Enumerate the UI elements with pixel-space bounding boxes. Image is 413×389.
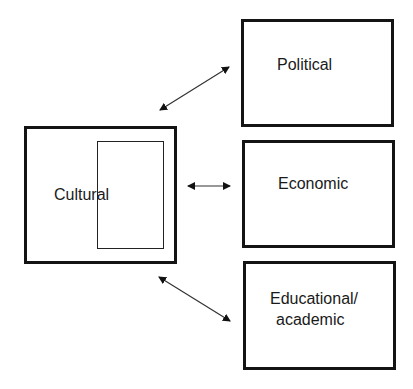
arrow-political — [160, 67, 229, 110]
arrow-educational — [159, 277, 230, 321]
connector-arrows — [0, 0, 413, 389]
